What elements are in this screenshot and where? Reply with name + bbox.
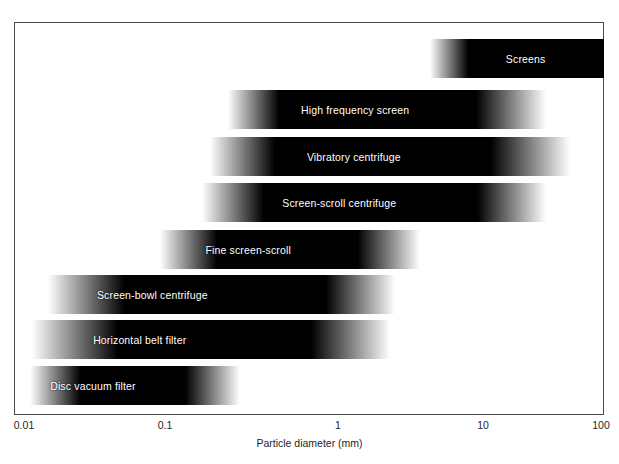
- bar-label: Disc vacuum filter: [50, 380, 136, 392]
- bar-horizontal-belt-filter: Horizontal belt filter: [32, 320, 390, 359]
- particle-size-range-chart: ScreensHigh frequency screenVibratory ce…: [0, 0, 619, 464]
- bar-vibratory-centrifuge: Vibratory centrifuge: [210, 137, 570, 176]
- bar-label: Screen-bowl centrifuge: [97, 289, 208, 301]
- x-tick-0-01: 0.01: [14, 419, 34, 431]
- bar-label: Horizontal belt filter: [93, 334, 186, 346]
- x-tick-100: 100: [592, 419, 610, 431]
- bar-label: Screens: [506, 53, 546, 65]
- x-tick-0-1: 0.1: [158, 419, 173, 431]
- bar-label: Screen-scroll centrifuge: [282, 197, 396, 209]
- bar-label: Fine screen-scroll: [205, 244, 291, 256]
- bar-screen-bowl-centrifuge: Screen-bowl centrifuge: [48, 275, 395, 314]
- bar-label: High frequency screen: [301, 104, 409, 116]
- bar-label: Vibratory centrifuge: [307, 151, 401, 163]
- bar-screen-scroll-centrifuge: Screen-scroll centrifuge: [202, 183, 546, 222]
- x-tick-1: 1: [335, 419, 341, 431]
- bar-disc-vacuum-filter: Disc vacuum filter: [30, 366, 240, 405]
- bar-screens: Screens: [430, 39, 604, 78]
- bar-fine-screen-scroll: Fine screen-scroll: [160, 230, 420, 269]
- x-tick-10: 10: [477, 419, 489, 431]
- x-axis-title: Particle diameter (mm): [0, 437, 619, 449]
- bars-layer: ScreensHigh frequency screenVibratory ce…: [14, 22, 604, 415]
- bar-high-frequency-screen: High frequency screen: [228, 90, 545, 129]
